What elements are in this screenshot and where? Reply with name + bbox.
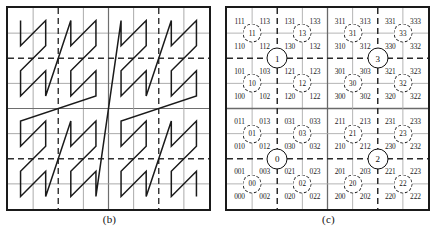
quadtree-root-node-2: 2	[367, 148, 388, 169]
leaf-code-313: 313	[360, 16, 371, 25]
leaf-code-301: 301	[335, 66, 346, 75]
leaf-code-101: 101	[234, 66, 245, 75]
leaf-code-310: 310	[335, 41, 346, 50]
leaf-code-033: 033	[310, 117, 321, 126]
leaf-code-013: 013	[259, 117, 270, 126]
quadtree-node-label: 11	[249, 29, 256, 37]
leaf-code-031: 031	[284, 117, 295, 126]
quadtree-node-22: 22	[393, 174, 412, 193]
quadtree-node-13: 13	[293, 24, 312, 43]
leaf-code-222: 222	[410, 192, 421, 201]
leaf-code-320: 320	[385, 91, 396, 100]
quadtree-label-layer: 1111131311333113133313331101121301323103…	[227, 8, 428, 209]
leaf-code-221: 221	[385, 167, 396, 176]
panel-b-frame	[6, 6, 211, 211]
leaf-code-021: 021	[284, 167, 295, 176]
quadtree-root-node-label: 1	[275, 53, 280, 63]
leaf-code-321: 321	[385, 66, 396, 75]
quadtree-node-label: 13	[299, 29, 306, 37]
leaf-code-011: 011	[234, 117, 245, 126]
panel-c-caption: (c)	[219, 213, 438, 225]
quadtree-node-01: 01	[243, 124, 262, 143]
panel-b-caption: (b)	[0, 213, 219, 225]
quadtree-root-node-label: 0	[275, 154, 280, 164]
leaf-code-002: 002	[259, 192, 270, 201]
leaf-code-212: 212	[360, 142, 371, 151]
leaf-code-330: 330	[385, 41, 396, 50]
quadtree-node-label: 20	[349, 180, 356, 188]
quadtree-root-node-0: 0	[267, 148, 288, 169]
leaf-code-210: 210	[335, 142, 346, 151]
quadtree-node-label: 22	[399, 180, 406, 188]
leaf-code-311: 311	[335, 16, 346, 25]
quadtree-node-02: 02	[293, 174, 312, 193]
quadtree-node-33: 33	[393, 24, 412, 43]
quadtree-node-label: 31	[349, 29, 356, 37]
leaf-code-120: 120	[284, 91, 295, 100]
quadtree-node-label: 03	[299, 130, 306, 138]
quadtree-node-31: 31	[343, 24, 362, 43]
panel-b: (b)	[0, 0, 219, 232]
leaf-code-323: 323	[410, 66, 421, 75]
leaf-code-012: 012	[259, 142, 270, 151]
quadtree-node-label: 12	[299, 79, 306, 87]
quadtree-node-label: 00	[249, 180, 256, 188]
leaf-code-230: 230	[385, 142, 396, 151]
quadtree-node-23: 23	[393, 124, 412, 143]
leaf-code-200: 200	[335, 192, 346, 201]
leaf-code-001: 001	[234, 167, 245, 176]
leaf-code-003: 003	[259, 167, 270, 176]
panel-c-frame: 1111131311333113133313331101121301323103…	[225, 6, 430, 211]
leaf-code-123: 123	[310, 66, 321, 75]
leaf-code-030: 030	[284, 142, 295, 151]
leaf-code-133: 133	[310, 16, 321, 25]
panel-c: 1111131311333113133313331101121301323103…	[219, 0, 438, 232]
quadtree-node-12: 12	[293, 74, 312, 93]
quadtree-node-label: 33	[399, 29, 406, 37]
leaf-code-332: 332	[410, 41, 421, 50]
quadtree-node-20: 20	[343, 174, 362, 193]
leaf-code-302: 302	[360, 91, 371, 100]
leaf-code-203: 203	[360, 167, 371, 176]
leaf-code-122: 122	[310, 91, 321, 100]
leaf-code-102: 102	[259, 91, 270, 100]
leaf-code-111: 111	[234, 16, 244, 25]
leaf-code-020: 020	[284, 192, 295, 201]
leaf-code-010: 010	[234, 142, 245, 151]
leaf-code-000: 000	[234, 192, 245, 201]
quadtree-node-10: 10	[243, 74, 262, 93]
quadtree-node-label: 01	[249, 130, 256, 138]
leaf-code-303: 303	[360, 66, 371, 75]
leaf-code-333: 333	[410, 16, 421, 25]
leaf-code-131: 131	[284, 16, 295, 25]
quadtree-node-label: 10	[249, 79, 256, 87]
leaf-code-023: 023	[310, 167, 321, 176]
leaf-code-231: 231	[385, 117, 396, 126]
leaf-code-100: 100	[234, 91, 245, 100]
leaf-code-022: 022	[310, 192, 321, 201]
quadtree-node-30: 30	[343, 74, 362, 93]
leaf-code-032: 032	[310, 142, 321, 151]
leaf-code-223: 223	[410, 167, 421, 176]
leaf-code-201: 201	[335, 167, 346, 176]
leaf-code-121: 121	[284, 66, 295, 75]
quadtree-node-32: 32	[393, 74, 412, 93]
leaf-code-132: 132	[310, 41, 321, 50]
quadtree-node-label: 32	[399, 79, 406, 87]
leaf-code-300: 300	[335, 91, 346, 100]
leaf-code-112: 112	[259, 41, 270, 50]
leaf-code-233: 233	[410, 117, 421, 126]
quadtree-node-label: 21	[349, 130, 356, 138]
quadtree-root-node-3: 3	[367, 48, 388, 69]
leaf-code-103: 103	[259, 66, 270, 75]
leaf-code-130: 130	[284, 41, 295, 50]
quadtree-node-03: 03	[293, 124, 312, 143]
leaf-code-322: 322	[410, 91, 421, 100]
quadtree-node-21: 21	[343, 124, 362, 143]
leaf-code-232: 232	[410, 142, 421, 151]
quadtree-node-label: 30	[349, 79, 356, 87]
quadtree-root-node-1: 1	[267, 48, 288, 69]
morton-curve-canvas	[8, 8, 209, 209]
quadtree-node-label: 23	[399, 130, 406, 138]
leaf-code-211: 211	[335, 117, 346, 126]
